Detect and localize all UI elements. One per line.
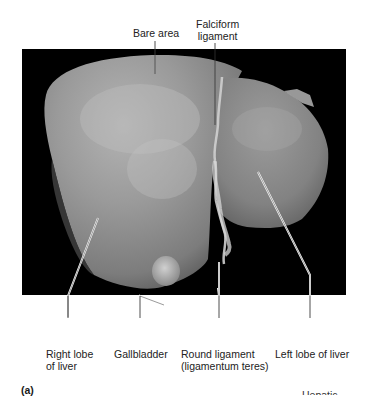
gallbladder-shape — [152, 256, 180, 286]
panel-letter: (a) — [21, 384, 34, 396]
label-right-lobe: Right lobe of liver — [46, 348, 93, 372]
leader-gallbladder — [140, 296, 164, 318]
label-round-ligament: Round ligament (ligamentum teres) — [181, 348, 269, 372]
liver-image — [22, 49, 346, 295]
label-left-lobe: Left lobe of liver — [275, 348, 349, 360]
label-bare-area: Bare area — [133, 27, 179, 39]
cut-off-label: Hepatic — [302, 389, 338, 395]
label-falciform-ligament: Falciform ligament — [196, 18, 239, 42]
liver-photograph — [22, 49, 346, 295]
label-gallbladder: Gallbladder — [114, 348, 168, 360]
